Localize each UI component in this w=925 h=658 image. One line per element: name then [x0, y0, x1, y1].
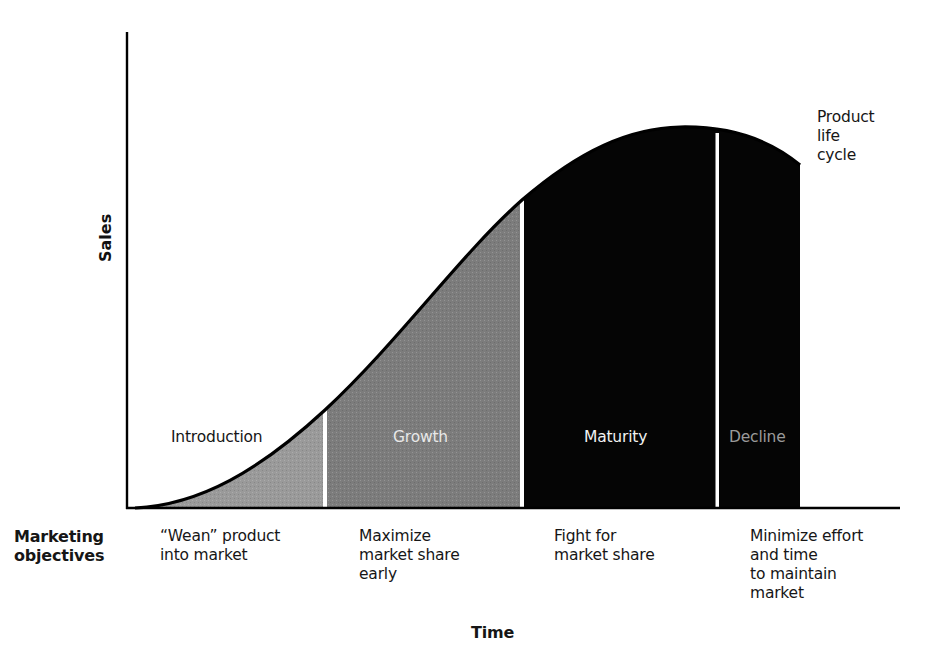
- decline-fill: [717, 100, 800, 508]
- maturity-fill: [522, 100, 717, 508]
- divider-growth-maturity: [520, 100, 524, 508]
- stage-fills: [127, 100, 800, 508]
- objective-maturity: Fight for market share: [554, 527, 655, 565]
- divider-maturity-decline: [716, 133, 720, 508]
- objective-introduction: “Wean” product into market: [160, 527, 280, 565]
- divider-intro-growth: [323, 100, 327, 508]
- objective-growth: Maximize market share early: [359, 527, 460, 584]
- stage-label-growth: Growth: [393, 428, 448, 446]
- stage-label-maturity: Maturity: [584, 428, 647, 446]
- stage-label-introduction: Introduction: [171, 428, 262, 446]
- marketing-objectives-label: Marketing objectives: [14, 527, 104, 565]
- curve-label: Product life cycle: [817, 108, 874, 165]
- stage-label-decline: Decline: [729, 428, 786, 446]
- objective-decline: Minimize effort and time to maintain mar…: [750, 527, 863, 603]
- x-axis-label: Time: [471, 623, 514, 642]
- y-axis-label: Sales: [96, 214, 115, 262]
